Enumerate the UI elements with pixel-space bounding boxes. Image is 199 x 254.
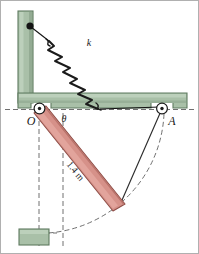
- pivot-a-label: A: [167, 114, 176, 128]
- rotating-bar: 1.4 m: [34, 106, 125, 211]
- angle-label: θ: [62, 113, 67, 124]
- spring-constant-label: k: [87, 37, 92, 48]
- pivot-o: [34, 103, 45, 114]
- tie-line-a-to-bar: [119, 111, 161, 207]
- pivot-o-label: O: [27, 114, 36, 128]
- figure-canvas: k 1.4 m O A θ: [1, 1, 199, 254]
- physics-figure: k 1.4 m O A θ: [0, 0, 199, 254]
- base-block: [19, 229, 49, 245]
- pivot-a: [157, 103, 168, 114]
